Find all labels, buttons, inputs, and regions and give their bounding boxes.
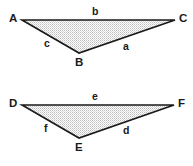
- side-label-e: e: [92, 91, 98, 102]
- side-label-c: c: [44, 38, 50, 49]
- vertex-label-d: D: [9, 98, 17, 110]
- geometry-figure: A C B b c a D F E e f d: [0, 0, 193, 166]
- triangles-svg: [0, 0, 193, 166]
- side-label-a: a: [123, 41, 129, 52]
- vertex-label-f: F: [178, 98, 185, 110]
- vertex-label-b: B: [75, 57, 83, 69]
- vertex-label-a: A: [9, 13, 17, 25]
- vertex-label-e: E: [75, 142, 83, 154]
- side-label-f: f: [44, 123, 48, 134]
- vertex-label-c: C: [179, 13, 187, 25]
- side-label-b: b: [92, 6, 98, 17]
- side-label-d: d: [123, 125, 129, 136]
